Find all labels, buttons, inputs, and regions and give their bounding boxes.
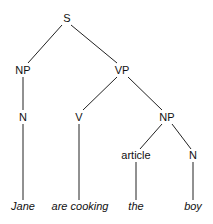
node-np-subject: NP: [15, 64, 30, 76]
edge-vp-v: [83, 77, 117, 110]
node-np-object: NP: [159, 111, 174, 123]
edge-vp-np: [128, 77, 162, 110]
node-n-subject: N: [19, 111, 27, 123]
node-v: V: [75, 111, 83, 123]
leaf-are-cooking: are cooking: [52, 200, 110, 212]
node-vp: VP: [115, 64, 130, 76]
edge-s-np: [28, 25, 62, 63]
node-article: article: [121, 149, 150, 161]
syntax-tree-diagram: S NP VP N V NP article N Jane are cookin…: [0, 0, 213, 224]
node-n-object: N: [189, 149, 197, 161]
leaf-boy: boy: [184, 200, 203, 212]
edge-np-n2: [172, 124, 191, 149]
node-s: S: [63, 12, 70, 24]
edge-s-vp: [71, 25, 117, 63]
edge-np-article: [140, 124, 162, 149]
leaf-the: the: [128, 200, 143, 212]
leaf-jane: Jane: [10, 200, 35, 212]
